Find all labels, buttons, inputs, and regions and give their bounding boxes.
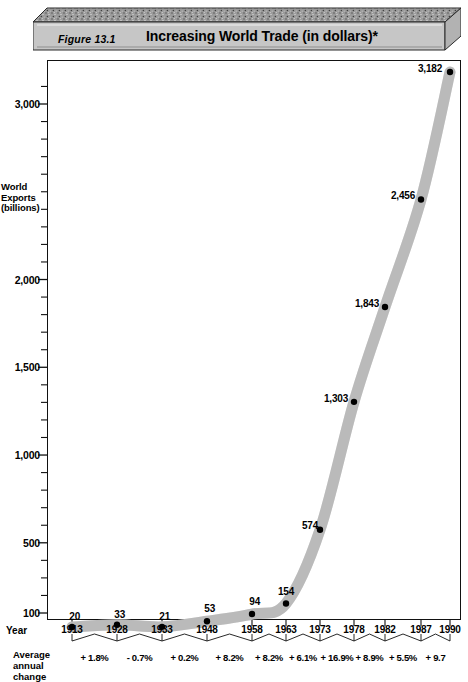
interval-bracket <box>320 634 354 641</box>
annual-change-title-line-1: Average <box>13 649 50 660</box>
plot-frame <box>47 60 461 620</box>
data-point-value-label: 2,456 <box>375 190 415 201</box>
y-tick-label: 1,500 <box>0 361 40 373</box>
y-axis-title-line-3: (billions) <box>1 203 40 214</box>
annual-change-value: + 9.7 <box>412 652 460 663</box>
interval-bracket <box>421 634 450 641</box>
x-axis-title: Year <box>6 625 27 636</box>
annual-change-title-line-3: change <box>13 671 50 682</box>
x-tick-label: 1982 <box>365 624 405 635</box>
data-point-value-label: 21 <box>130 611 170 622</box>
interval-bracket <box>207 634 252 641</box>
y-tick-label: 2,000 <box>0 274 40 286</box>
x-tick-label: 1948 <box>187 624 227 635</box>
interval-bracket <box>252 634 286 641</box>
y-axis-title-line-1: World <box>1 182 40 193</box>
y-tick-label: 3,000 <box>0 98 40 110</box>
x-tick-label: 1990 <box>430 624 468 635</box>
x-tick-label: 1933 <box>142 624 182 635</box>
interval-bracket <box>354 634 385 641</box>
annual-change-value: - 0.7% <box>116 652 164 663</box>
x-tick-label: 1928 <box>97 624 137 635</box>
data-point-value-label: 1,843 <box>339 298 379 309</box>
annual-change-title-line-2: annual <box>13 660 50 671</box>
y-tick-label: 1,000 <box>0 449 40 461</box>
data-point-value-label: 94 <box>220 596 260 607</box>
data-point-value-label: 20 <box>40 611 80 622</box>
y-axis-title: World Exports (billions) <box>1 182 40 214</box>
data-point-value-label: 154 <box>254 586 294 597</box>
interval-bracket <box>72 634 117 641</box>
data-point-value-label: 53 <box>175 603 215 614</box>
data-point-value-label: 1,303 <box>308 393 348 404</box>
data-point-value-label: 3,182 <box>402 63 442 74</box>
annual-change-title: Average annual change <box>13 649 50 682</box>
plaque-shape <box>33 6 461 56</box>
y-tick-label: 100 <box>0 607 40 619</box>
interval-brackets <box>72 634 450 641</box>
annual-change-value: + 0.2% <box>161 652 209 663</box>
figure-header-plaque: Figure 13.1 Increasing World Trade (in d… <box>33 6 461 56</box>
data-point-value-label: 574 <box>278 520 318 531</box>
x-tick-label: 1913 <box>52 624 92 635</box>
y-axis-ticks <box>38 86 47 613</box>
annual-change-value: + 1.8% <box>71 652 119 663</box>
interval-bracket <box>162 634 207 641</box>
data-point-value-label: 33 <box>85 609 125 620</box>
interval-bracket <box>286 634 320 641</box>
interval-bracket <box>117 634 162 641</box>
y-tick-label: 500 <box>0 537 40 549</box>
interval-bracket <box>385 634 421 641</box>
